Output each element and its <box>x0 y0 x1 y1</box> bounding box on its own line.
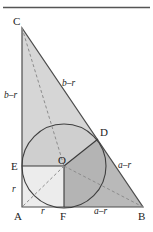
point-label-E: E <box>11 160 18 172</box>
geometry-figure: C A B O E F D b–r r r a–r b–r a–r <box>0 0 153 232</box>
segment-label-hyp-lower: a–r <box>118 160 132 170</box>
segment-label-hyp-upper: b–r <box>62 78 76 88</box>
point-label-A: A <box>14 210 22 222</box>
point-label-C: C <box>13 15 20 27</box>
point-label-F: F <box>60 210 66 222</box>
segment-label-left-lower: r <box>12 184 16 194</box>
figure-page: C A B O E F D b–r r r a–r b–r a–r <box>0 0 153 232</box>
point-label-D: D <box>100 126 108 138</box>
point-label-O: O <box>58 154 66 166</box>
segment-label-left-upper: b–r <box>4 90 18 100</box>
point-label-B: B <box>138 210 145 222</box>
segment-label-bottom-left: r <box>41 206 45 216</box>
segment-label-bottom-right: a–r <box>94 206 108 216</box>
